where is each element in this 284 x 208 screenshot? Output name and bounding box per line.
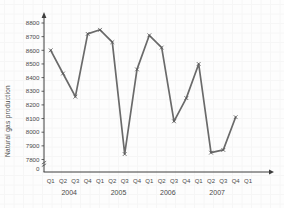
- x-year-label: 2004: [61, 189, 77, 196]
- x-quarter-label: Q2: [207, 178, 216, 184]
- x-year-label: 2006: [160, 189, 176, 196]
- y-tick-label: 8700: [26, 33, 40, 40]
- x-quarter-label: Q3: [121, 178, 130, 184]
- x-quarter-label: Q4: [133, 178, 142, 184]
- y-tick-label: 8800: [26, 19, 40, 26]
- y-tick-label: 7900: [26, 142, 40, 149]
- x-quarter-label: Q2: [108, 178, 117, 184]
- x-quarter-label: Q3: [71, 178, 80, 184]
- y-tick-label: 8300: [26, 87, 40, 94]
- x-quarter-label: Q1: [244, 178, 253, 184]
- y-tick-label: 8100: [26, 115, 40, 122]
- natural-gas-production-chart: 7800790080008100820083008400850086008700…: [0, 0, 284, 208]
- x-quarter-label: Q1: [195, 178, 204, 184]
- origin-label: 0: [36, 165, 40, 172]
- x-quarter-label: Q4: [84, 178, 93, 184]
- x-year-label: 2007: [209, 189, 225, 196]
- y-tick-label: 8200: [26, 101, 40, 108]
- x-quarter-label: Q4: [182, 178, 191, 184]
- x-quarter-label: Q3: [219, 178, 228, 184]
- chart-grid: [0, 0, 284, 208]
- x-quarter-label: Q3: [170, 178, 179, 184]
- y-axis-title: Natural gas production: [4, 85, 11, 157]
- x-quarter-label: Q1: [145, 178, 154, 184]
- y-tick-label: 8400: [26, 74, 40, 81]
- data-line: [51, 30, 236, 154]
- y-tick-label: 8500: [26, 60, 40, 67]
- line-chart-canvas: 7800790080008100820083008400850086008700…: [0, 0, 284, 208]
- x-year-label: 2005: [111, 189, 127, 196]
- x-axis-arrow-icon: [269, 170, 274, 175]
- x-quarter-label: Q1: [47, 178, 56, 184]
- y-tick-label: 8600: [26, 47, 40, 54]
- x-quarter-label: Q4: [232, 178, 241, 184]
- y-tick-label: 8000: [26, 128, 40, 135]
- y-tick-label: 7800: [26, 156, 40, 163]
- x-quarter-label: Q1: [96, 178, 105, 184]
- x-quarter-label: Q2: [59, 178, 68, 184]
- x-quarter-label: Q2: [158, 178, 167, 184]
